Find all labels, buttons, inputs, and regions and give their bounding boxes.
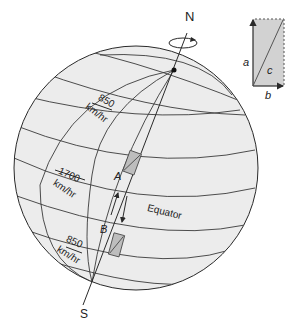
- coriolis-diagram: N S 850 km/hr 1700 km/hr 850 km/hr Equat…: [0, 0, 299, 324]
- pole-point: [172, 68, 177, 73]
- south-pole-label: S: [80, 308, 88, 320]
- globe-graphic: [0, 0, 299, 324]
- vector-c-label: c: [267, 65, 273, 76]
- point-b-label: B: [100, 224, 107, 235]
- vector-b-label: b: [265, 90, 271, 101]
- point-a-label: A: [114, 171, 121, 182]
- north-pole-label: N: [185, 10, 194, 23]
- vector-a-label: a: [243, 57, 249, 68]
